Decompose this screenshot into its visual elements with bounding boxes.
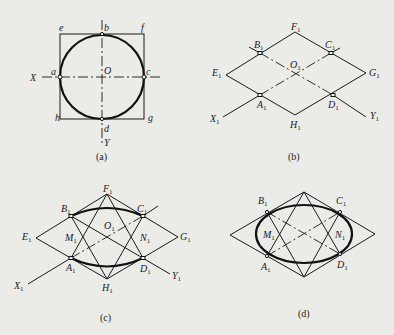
label-O1: O1	[104, 220, 115, 233]
panel-d: B1 C1 M1 N1 A1 D1 (d)	[230, 192, 375, 320]
point-B1	[265, 210, 268, 213]
label-A1: A1	[65, 262, 76, 275]
x1-axis-dash	[267, 212, 340, 256]
label-N1: N1	[139, 232, 151, 245]
label-Y1: Y1	[370, 110, 380, 123]
label-H1: H1	[289, 119, 301, 132]
label-D1: D1	[139, 263, 151, 276]
label-c: c	[146, 66, 151, 77]
label-Y1: Y1	[172, 270, 182, 283]
x1-axis-solid	[28, 258, 71, 284]
label-X1: X1	[13, 280, 24, 293]
point-C1	[338, 210, 341, 213]
label-G1: G1	[369, 67, 380, 80]
point-d	[100, 117, 103, 120]
x1-axis-solid	[223, 95, 260, 117]
label-M1: M1	[64, 232, 77, 245]
panel-a: X a b c d e f g h O Y (a)	[29, 20, 160, 163]
caption-c: (c)	[100, 312, 111, 324]
label-M1: M1	[262, 229, 275, 242]
panel-b: F1 B1 C1 E1 G1 O1 A1 D1 H1 X1 Y1 (b)	[209, 21, 380, 163]
label-C1: C1	[336, 195, 347, 208]
label-Y: Y	[104, 137, 111, 148]
caption-d: (d)	[298, 308, 310, 320]
panel-c: F1 B1 C1 E1 G1 O1 M1 N1 A1 D1 H1 X1 Y1 (…	[13, 183, 191, 324]
label-f: f	[141, 22, 145, 33]
label-a: a	[51, 66, 56, 77]
point-D1	[331, 94, 335, 97]
label-E1: E1	[21, 231, 32, 244]
label-X1: X1	[209, 113, 220, 126]
label-A1: A1	[260, 261, 271, 274]
label-N1: N1	[334, 229, 346, 242]
point-D1	[141, 257, 145, 260]
line-F-A1	[267, 192, 304, 256]
label-e: e	[59, 22, 64, 33]
point-A1	[265, 254, 268, 257]
label-h: h	[55, 112, 60, 123]
point-D1	[338, 252, 341, 255]
label-H1: H1	[101, 282, 113, 295]
point-a	[58, 75, 62, 79]
label-X: X	[29, 72, 37, 83]
caption-a: (a)	[96, 151, 107, 163]
caption-b: (b)	[288, 151, 300, 163]
isometric-ellipse-diagram: X a b c d e f g h O Y (a) F1 B1 C1 E1 G1…	[0, 0, 394, 335]
label-D1: D1	[336, 259, 348, 272]
label-D1: D1	[327, 99, 339, 112]
label-d: d	[104, 123, 110, 134]
label-b: b	[104, 22, 109, 33]
label-G1: G1	[180, 231, 191, 244]
label-B1: B1	[258, 195, 268, 208]
label-E1: E1	[211, 67, 222, 80]
label-g: g	[148, 112, 153, 123]
label-O1: O1	[290, 59, 301, 72]
arc-bottom	[71, 258, 143, 267]
point-A1	[69, 257, 73, 260]
label-O: O	[104, 65, 111, 76]
label-A1: A1	[256, 99, 267, 112]
point-A1	[258, 94, 262, 97]
label-B1: B1	[61, 203, 71, 216]
